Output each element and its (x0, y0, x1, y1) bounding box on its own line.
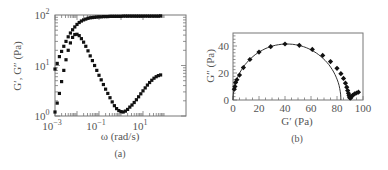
panel-a-ticks (55, 15, 186, 116)
data-point-g-double-prime (159, 73, 162, 76)
data-point-g-double-prime (97, 74, 100, 77)
data-point-g-prime (62, 45, 65, 48)
data-point-g-double-prime (133, 101, 136, 104)
panel-a-y-axis-label: G′, G″ (Pa) (11, 41, 24, 91)
data-point-g-double-prime (108, 96, 111, 99)
data-point-g-double-prime (135, 98, 138, 101)
data-point-g-prime (67, 35, 70, 38)
data-point-g-double-prime (102, 83, 105, 86)
data-point (320, 53, 325, 58)
data-point-g-prime (58, 55, 61, 58)
x-tick-label: 100 (355, 102, 372, 114)
x-tick-label: 60 (306, 102, 318, 114)
data-point-g-double-prime (80, 37, 83, 40)
data-point-g-prime (53, 67, 56, 70)
data-point-g-double-prime (84, 45, 87, 48)
data-point (343, 81, 348, 86)
data-point-g-double-prime (69, 41, 72, 44)
data-point-g-double-prime (58, 92, 61, 95)
x-tick-label: 80 (332, 102, 344, 114)
panel-b-caption: (b) (291, 133, 303, 145)
y-tick-label: 101 (35, 58, 50, 72)
data-point-g-double-prime (91, 59, 94, 62)
x-tick-label: 40 (280, 102, 292, 114)
data-point-g-prime (159, 14, 162, 17)
data-point-g-double-prime (104, 88, 107, 91)
data-point-g-double-prime (67, 49, 70, 52)
y-tick-label: 20 (218, 67, 230, 79)
panel-a-frame (55, 15, 186, 116)
data-point-g-double-prime (53, 110, 56, 113)
data-point-g-double-prime (60, 80, 63, 83)
data-point (341, 76, 346, 81)
data-point-g-double-prime (141, 89, 144, 92)
x-tick-label: 0 (230, 102, 236, 114)
figure-canvas: 10−310−1101100101102 ω (rad/s) G′, G″ (P… (0, 0, 388, 170)
panel-a-plot: 10−310−1101100101102 ω (rad/s) G′, G″ (P… (11, 7, 186, 160)
data-point-g-prime (64, 40, 67, 43)
panel-b-semicircle-fit-line (233, 44, 341, 100)
data-point-g-double-prime (137, 95, 140, 98)
data-point-g-double-prime (78, 34, 81, 37)
y-tick-label: 102 (35, 7, 50, 21)
data-point-g-prime (60, 50, 63, 53)
data-point (328, 59, 333, 64)
data-point-g-double-prime (93, 64, 96, 67)
data-point (334, 66, 339, 71)
data-point-g-double-prime (64, 58, 67, 61)
panel-a-caption: (a) (114, 148, 125, 160)
panel-b-x-axis-label: G′ (Pa) (281, 115, 313, 128)
data-point-g-prime (56, 62, 59, 65)
data-point-g-double-prime (62, 69, 65, 72)
data-point-g-prime (71, 28, 74, 31)
data-point-g-double-prime (95, 69, 98, 72)
data-point-g-double-prime (86, 49, 89, 52)
data-point-g-double-prime (56, 102, 59, 105)
panel-b-tick-labels: 02040608010002040 (218, 40, 372, 114)
panel-a-data-points (53, 14, 162, 113)
data-point-g-double-prime (144, 86, 147, 89)
data-point-g-double-prime (82, 41, 85, 44)
data-point (338, 71, 343, 76)
y-tick-label: 0 (224, 94, 230, 106)
x-tick-label: 20 (254, 102, 266, 114)
data-point-g-double-prime (111, 100, 114, 103)
data-point-g-double-prime (71, 36, 74, 39)
panel-b-y-axis-label: G″ (Pa) (204, 49, 217, 83)
data-point (297, 43, 302, 48)
data-point-g-double-prime (100, 78, 103, 81)
data-point-g-double-prime (139, 92, 142, 95)
data-point-g-double-prime (89, 54, 92, 57)
y-tick-label: 40 (218, 40, 230, 52)
panel-b-data-points (232, 41, 361, 100)
data-point-g-prime (69, 31, 72, 34)
data-point (282, 41, 287, 46)
data-point (268, 44, 273, 49)
data-point-g-double-prime (106, 92, 109, 95)
panel-a-tick-labels: 10−310−1101100101102 (35, 7, 148, 132)
panel-b-plot: 02040608010002040 G′ (Pa) G″ (Pa) (b) (204, 33, 372, 145)
data-point-g-double-prime (113, 104, 116, 107)
panel-b-frame (233, 33, 363, 100)
panel-a-x-axis-label: ω (rad/s) (101, 130, 140, 143)
